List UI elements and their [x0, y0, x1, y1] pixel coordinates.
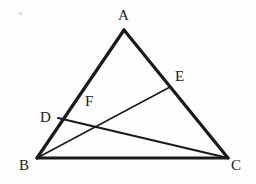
cevian-BE	[37, 87, 170, 158]
label-E: E	[175, 69, 184, 84]
side-AC	[124, 30, 228, 158]
cevian-DC	[58, 118, 228, 158]
label-A: A	[118, 8, 129, 23]
label-B: B	[19, 158, 29, 173]
label-D: D	[40, 110, 51, 125]
artifact-speck	[19, 12, 22, 15]
label-C: C	[231, 158, 241, 173]
side-AB	[37, 30, 124, 158]
segments-group	[37, 30, 228, 158]
label-F: F	[85, 94, 93, 109]
geometry-figure: ABCDEF	[0, 0, 256, 184]
geometry-canvas	[0, 0, 256, 184]
